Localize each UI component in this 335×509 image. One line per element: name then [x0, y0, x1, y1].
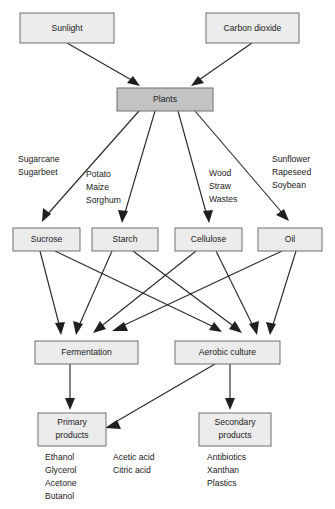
label-oil-source-2: Soybean — [272, 180, 306, 190]
edge-carbon-dioxide-to-plants — [191, 43, 252, 86]
label-sucrose-sources: Sugarcane Sugarbeet — [18, 154, 60, 177]
node-carbon-dioxide-label: Carbon dioxide — [224, 23, 282, 33]
list-primary-products-right: Acetic acid Citric acid — [113, 452, 155, 475]
node-sunlight[interactable]: Sunlight — [20, 13, 114, 43]
edge-plants-to-cellulose — [178, 111, 213, 223]
label-oil-source-0: Sunflower — [272, 154, 310, 164]
label-starch-source-1: Maize — [86, 182, 109, 192]
primary-product-right-0: Acetic acid — [113, 452, 155, 462]
primary-product-left-0: Ethanol — [45, 452, 74, 462]
node-plants[interactable]: Plants — [117, 88, 213, 111]
node-cellulose-label: Cellulose — [191, 234, 227, 244]
node-carbon-dioxide[interactable]: Carbon dioxide — [206, 13, 299, 43]
edge-sunlight-to-plants — [67, 43, 140, 86]
node-primary-products-label-line2: products — [56, 430, 89, 440]
node-starch[interactable]: Starch — [92, 228, 158, 251]
node-aerobic-culture-label: Aerobic culture — [199, 347, 257, 357]
edge-oil-to-aerobic-culture — [266, 251, 296, 335]
list-primary-products-left: Ethanol Glycerol Acetone Butanol — [45, 452, 77, 501]
node-primary-products[interactable]: Primary products — [38, 413, 106, 446]
primary-product-right-1: Citric acid — [113, 465, 151, 475]
node-aerobic-culture[interactable]: Aerobic culture — [175, 341, 280, 364]
node-cellulose[interactable]: Cellulose — [175, 228, 242, 251]
label-starch-source-0: Potato — [86, 169, 111, 179]
label-cellulose-source-2: Wastes — [209, 194, 237, 204]
label-sucrose-source-1: Sugarbeet — [18, 167, 58, 177]
label-starch-source-2: Sorghum — [86, 195, 121, 205]
node-secondary-products-label-line1: Secondary — [214, 417, 256, 427]
node-primary-products-label-line1: Primary — [57, 417, 87, 427]
secondary-product-1: Xanthan — [207, 465, 239, 475]
edge-plants-to-oil — [195, 111, 289, 221]
node-starch-label: Starch — [113, 234, 138, 244]
edge-sucrose-to-fermentation — [40, 251, 65, 335]
label-cellulose-source-1: Straw — [209, 181, 232, 191]
secondary-product-0: Antibiotics — [207, 452, 246, 462]
label-oil-sources: Sunflower Rapeseed Soybean — [272, 154, 311, 190]
edge-starch-to-aerobic-culture — [133, 251, 242, 333]
list-secondary-products: Antibiotics Xanthan Plastics — [207, 452, 246, 488]
edge-cellulose-to-aerobic-culture — [216, 251, 259, 335]
label-sucrose-source-0: Sugarcane — [18, 154, 60, 164]
process-flow-diagram: Sunlight Carbon dioxide Plants Sucrose S… — [0, 0, 335, 509]
edge-fermentation-to-primary-products — [65, 364, 75, 410]
node-fermentation[interactable]: Fermentation — [35, 341, 138, 364]
node-sunlight-label: Sunlight — [51, 23, 83, 33]
node-oil[interactable]: Oil — [258, 228, 322, 251]
node-secondary-products-label-line2: products — [219, 430, 252, 440]
primary-product-left-2: Acetone — [45, 478, 77, 488]
node-sucrose-label: Sucrose — [31, 234, 63, 244]
label-cellulose-source-0: Wood — [209, 168, 232, 178]
primary-product-left-3: Butanol — [45, 491, 74, 501]
primary-product-left-1: Glycerol — [45, 465, 77, 475]
node-fermentation-label: Fermentation — [61, 347, 112, 357]
node-oil-label: Oil — [285, 234, 296, 244]
label-starch-sources: Potato Maize Sorghum — [86, 169, 121, 205]
label-oil-source-1: Rapeseed — [272, 167, 311, 177]
edge-cellulose-to-fermentation — [93, 251, 196, 333]
edge-aerobic-culture-to-secondary-products — [225, 364, 235, 410]
node-secondary-products[interactable]: Secondary products — [199, 413, 271, 446]
secondary-product-2: Plastics — [207, 478, 237, 488]
node-sucrose[interactable]: Sucrose — [13, 228, 80, 251]
label-cellulose-sources: Wood Straw Wastes — [209, 168, 237, 204]
node-plants-label: Plants — [153, 94, 177, 104]
